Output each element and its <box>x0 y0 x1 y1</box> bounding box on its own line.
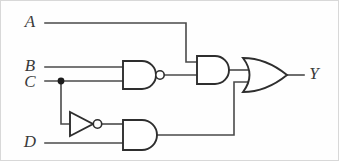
label-input-a: A <box>24 12 36 31</box>
wire-c-branch-to-inverter <box>61 81 70 124</box>
nand-gate-bc <box>123 61 164 89</box>
or-gate-output <box>243 58 287 92</box>
nand-output-bubble-icon <box>156 71 164 79</box>
logic-circuit-figure: A B C D Y <box>0 0 339 161</box>
wire-input-a <box>45 23 197 62</box>
not-gate-c <box>70 112 102 136</box>
and-gate-a-nand <box>197 56 229 84</box>
label-input-d: D <box>23 132 37 151</box>
nand-gate-body <box>123 61 156 89</box>
label-input-c: C <box>24 72 36 91</box>
and-gate-lower-body <box>123 120 157 150</box>
not-gate-body <box>70 112 93 136</box>
not-output-bubble-icon <box>93 120 101 128</box>
junction-dot-c <box>58 78 65 85</box>
or-gate-body <box>243 58 287 92</box>
label-output-y: Y <box>309 64 320 83</box>
and-gate-notc-d <box>123 120 157 150</box>
circuit-canvas: A B C D Y <box>0 0 339 161</box>
wire-and2-to-or <box>157 82 250 135</box>
and-gate-upper-body <box>197 56 229 84</box>
